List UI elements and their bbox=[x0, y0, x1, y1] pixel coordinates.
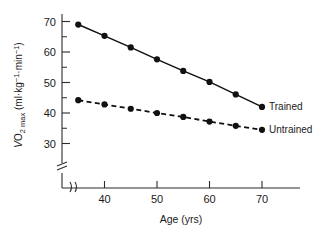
y-axis-tick-labels: 70 60 50 40 30 bbox=[44, 16, 56, 150]
data-point bbox=[206, 79, 212, 85]
data-point bbox=[180, 114, 186, 120]
axes-group bbox=[57, 14, 300, 192]
y-tick-label-60: 60 bbox=[44, 46, 56, 58]
y-axis-ticks bbox=[62, 22, 70, 144]
x-axis-break-icon bbox=[70, 182, 77, 192]
data-point bbox=[259, 127, 265, 133]
y-axis-title-sup1: −1 bbox=[12, 74, 21, 83]
series-trained bbox=[75, 21, 265, 110]
series-label-untrained: Untrained bbox=[269, 124, 312, 135]
data-point bbox=[259, 104, 265, 110]
y-tick-label-40: 40 bbox=[44, 107, 56, 119]
series-untrained bbox=[75, 97, 265, 133]
data-point bbox=[154, 110, 160, 116]
y-axis-break-icon bbox=[57, 162, 67, 170]
y-axis-title-units-mid: ·min bbox=[13, 54, 24, 73]
data-point bbox=[180, 68, 186, 74]
svg-text:V̇O2 max (ml·kg−1·min−1): V̇O2 max (ml·kg−1·min−1) bbox=[12, 42, 27, 147]
y-tick-label-50: 50 bbox=[44, 77, 56, 89]
x-tick-label-60: 60 bbox=[203, 193, 215, 205]
x-tick-label-40: 40 bbox=[98, 193, 110, 205]
data-point bbox=[233, 91, 239, 97]
chart-figure: 70 60 50 40 30 40 50 60 70 Age (yrs) V̇O… bbox=[0, 0, 327, 233]
y-axis-title-sup2: −1 bbox=[12, 46, 21, 55]
series-label-trained: Trained bbox=[269, 101, 303, 112]
y-tick-label-70: 70 bbox=[44, 16, 56, 28]
data-point bbox=[154, 56, 160, 62]
data-point bbox=[75, 21, 81, 27]
x-tick-label-50: 50 bbox=[151, 193, 163, 205]
data-series-layer bbox=[75, 21, 265, 132]
x-axis-tick-labels: 40 50 60 70 bbox=[98, 193, 268, 205]
data-point bbox=[206, 118, 212, 124]
y-axis-title: V̇O2 max (ml·kg−1·min−1) bbox=[12, 42, 27, 147]
vo2max-vs-age-line-chart: 70 60 50 40 30 40 50 60 70 Age (yrs) V̇O… bbox=[0, 0, 327, 233]
y-axis-title-units-open: (ml·kg bbox=[13, 82, 24, 113]
data-point bbox=[101, 101, 107, 107]
data-point bbox=[75, 97, 81, 103]
series-labels-layer: TrainedUntrained bbox=[269, 101, 312, 135]
x-axis-title: Age (yrs) bbox=[160, 213, 203, 225]
data-point bbox=[128, 106, 134, 112]
y-axis-title-units-close: ) bbox=[13, 42, 24, 45]
x-tick-label-70: 70 bbox=[256, 193, 268, 205]
y-axis-title-o-sub: 2 max bbox=[18, 113, 27, 134]
x-axis-ticks bbox=[105, 181, 263, 188]
data-point bbox=[128, 44, 134, 50]
data-point bbox=[233, 123, 239, 129]
y-tick-label-30: 30 bbox=[44, 138, 56, 150]
data-point bbox=[101, 33, 107, 39]
